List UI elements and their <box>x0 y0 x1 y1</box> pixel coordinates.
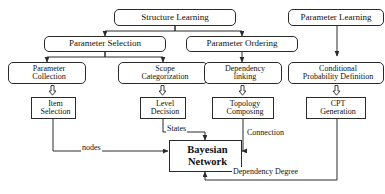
diagram-canvas: Structure Learning Parameter Learning Pa… <box>0 0 385 194</box>
block-arrow-down-icon-dependency-linking <box>238 85 247 96</box>
node-item-selection[interactable]: Item Selection <box>31 97 76 119</box>
node-conditional-probability-definition[interactable]: Conditional Probability Definition <box>288 62 384 84</box>
edge-topology-composing-to-bayesian-network <box>242 119 243 151</box>
node-topology-composing[interactable]: Topology Composing <box>212 97 274 119</box>
block-arrow-down-icon-parameter-collection <box>48 85 57 96</box>
edge-label-dependency-degree: Dependency Degree <box>232 167 299 176</box>
edge-label-connection: Connection <box>246 128 285 137</box>
node-structure-learning[interactable]: Structure Learning <box>114 9 236 26</box>
node-parameter-ordering-label: Parameter Ordering <box>187 39 297 48</box>
block-arrow-down-icon-scope-categorization <box>158 85 167 96</box>
node-parameter-collection[interactable]: Parameter Collection <box>8 62 86 84</box>
edge-label-states-text: States <box>167 124 186 133</box>
node-scope-categorization[interactable]: Scope Categorization <box>118 62 208 84</box>
edge-ps-to-parameter-collection <box>47 52 105 62</box>
node-cpt-generation-label: CPT Generation <box>316 100 356 116</box>
edge-label-nodes-text: nodes <box>82 143 101 152</box>
edge-label-states: States <box>166 124 187 133</box>
node-dependency-linking-label: Dependency linking <box>221 65 265 81</box>
node-item-selection-label: Item Selection <box>37 100 71 116</box>
node-bayesian-network-label: Bayesian Network <box>183 144 227 169</box>
edge-label-dependency-degree-text: Dependency Degree <box>233 167 298 176</box>
edge-structure-to-parameter-ordering <box>175 26 242 36</box>
edge-structure-to-parameter-selection <box>105 26 175 36</box>
edge-ps-to-scope-categorization <box>105 52 163 62</box>
node-conditional-probability-definition-label: Conditional Probability Definition <box>299 65 373 81</box>
node-level-decision[interactable]: Level Decision <box>140 97 186 119</box>
node-parameter-selection[interactable]: Parameter Selection <box>44 36 166 52</box>
node-parameter-learning[interactable]: Parameter Learning <box>288 9 384 26</box>
node-cpt-generation[interactable]: CPT Generation <box>306 97 366 119</box>
node-parameter-collection-label: Parameter Collection <box>28 65 65 81</box>
edge-label-connection-text: Connection <box>247 128 284 137</box>
node-scope-categorization-label: Scope Categorization <box>137 65 188 81</box>
node-parameter-learning-label: Parameter Learning <box>289 13 383 22</box>
edge-label-nodes: nodes <box>81 143 102 152</box>
node-parameter-selection-label: Parameter Selection <box>45 39 165 48</box>
edge-item-selection-to-bayesian-network <box>53 119 168 151</box>
node-parameter-ordering[interactable]: Parameter Ordering <box>186 36 298 52</box>
node-structure-learning-label: Structure Learning <box>115 13 235 22</box>
block-arrow-down-icon-cpt-generation <box>332 85 341 96</box>
node-dependency-linking[interactable]: Dependency linking <box>204 62 282 84</box>
node-topology-composing-label: Topology Composing <box>223 100 264 116</box>
node-level-decision-label: Level Decision <box>147 100 179 116</box>
